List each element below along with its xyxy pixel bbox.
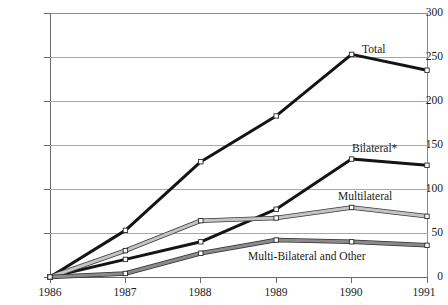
data-point-marker <box>425 68 429 72</box>
data-point-marker <box>349 240 353 244</box>
data-point-marker <box>274 216 278 220</box>
data-point-marker <box>199 218 203 222</box>
series-label-multi-bilateral-and-other: Multi-Bilateral and Other <box>248 250 366 262</box>
data-point-marker <box>349 157 353 161</box>
data-point-marker <box>274 114 278 118</box>
data-point-marker <box>274 238 278 242</box>
data-point-marker <box>199 251 203 255</box>
data-point-marker <box>349 52 353 56</box>
data-point-marker <box>349 205 353 209</box>
data-point-marker <box>274 207 278 211</box>
data-point-marker <box>199 240 203 244</box>
data-point-marker <box>425 163 429 167</box>
data-point-marker <box>123 257 127 261</box>
data-point-marker <box>425 214 429 218</box>
data-point-marker <box>199 160 203 164</box>
data-point-marker <box>123 271 127 275</box>
series-label-bilateral: Bilateral* <box>352 142 397 154</box>
series-label-multilateral: Multilateral <box>338 190 392 202</box>
data-point-marker <box>123 248 127 252</box>
data-point-marker <box>123 228 127 232</box>
data-point-marker <box>48 275 52 279</box>
series-label-total: Total <box>362 43 385 55</box>
data-point-marker <box>425 243 429 247</box>
